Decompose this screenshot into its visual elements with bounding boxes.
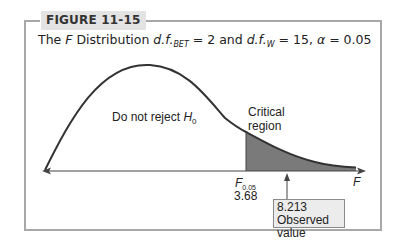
- density-curve: [45, 65, 356, 170]
- critical-region-label: Criticalregion: [248, 105, 285, 133]
- critical-line1: Critical: [248, 105, 285, 119]
- h0-symbol: H: [183, 110, 192, 124]
- critical-line2: region: [248, 119, 285, 133]
- do-not-reject-label: Do not reject H0: [112, 110, 197, 129]
- observed-arrow-icon: [284, 173, 290, 181]
- f-critical-value: 3.68: [234, 189, 257, 203]
- observed-value-box: 8.213Observed value: [273, 199, 345, 228]
- x-axis-label: F: [353, 175, 360, 189]
- critical-region-shade: [246, 132, 356, 171]
- observed-value-label: Observed value: [277, 214, 341, 240]
- do-not-reject-text: Do not reject: [112, 110, 183, 124]
- h0-subscript: 0: [192, 117, 196, 126]
